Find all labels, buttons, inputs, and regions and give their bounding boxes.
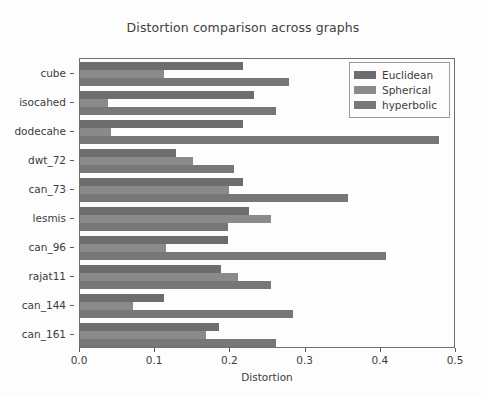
x-tick-mark [79, 348, 80, 352]
figure-canvas: Distortion comparison across graphs cube… [0, 0, 486, 395]
bar-dodecahe-euclidean [80, 120, 243, 128]
y-tick-mark [70, 334, 74, 335]
y-tick-label-cube: cube [40, 67, 66, 79]
y-tick-mark [70, 189, 74, 190]
bar-cube-spherical [80, 70, 164, 78]
y-tick-mark [70, 247, 74, 248]
y-tick-label-isocahed: isocahed [19, 96, 66, 108]
x-tick-mark [154, 348, 155, 352]
page-title: Distortion comparison across graphs [0, 20, 486, 35]
y-tick-label-dodecahe: dodecahe [14, 125, 66, 137]
bar-can_161-euclidean [80, 323, 219, 331]
legend-label: Spherical [382, 84, 431, 96]
y-tick-label-dwt_72: dwt_72 [28, 154, 66, 166]
x-tick-label-0.3: 0.3 [296, 354, 313, 366]
y-axis: cubeisocaheddodecahedwt_72can_73lesmisca… [0, 58, 74, 348]
x-tick-label-0.0: 0.0 [71, 354, 88, 366]
x-tick-label-0.5: 0.5 [447, 354, 464, 366]
y-tick-mark [70, 73, 74, 74]
y-tick-label-can_144: can_144 [22, 299, 66, 311]
legend-label: Euclidean [382, 69, 433, 81]
bar-can_144-euclidean [80, 294, 164, 302]
bar-lesmis-euclidean [80, 207, 249, 215]
x-tick-mark [229, 348, 230, 352]
bar-cube-hyperbolic [80, 78, 289, 86]
bar-rajat11-euclidean [80, 265, 221, 273]
bar-can_96-spherical [80, 244, 166, 252]
y-tick-mark [70, 102, 74, 103]
y-tick-mark [70, 218, 74, 219]
y-tick-mark [70, 131, 74, 132]
bar-isocahed-spherical [80, 99, 108, 107]
bar-can_96-hyperbolic [80, 252, 386, 260]
bar-can_73-hyperbolic [80, 194, 348, 202]
bar-dwt_72-spherical [80, 157, 193, 165]
bar-lesmis-hyperbolic [80, 223, 228, 231]
x-tick-mark [305, 348, 306, 352]
y-tick-label-rajat11: rajat11 [28, 270, 66, 282]
bar-can_73-euclidean [80, 178, 243, 186]
bar-can_96-euclidean [80, 236, 228, 244]
x-axis-label: Distortion [79, 371, 455, 383]
y-tick-label-lesmis: lesmis [33, 212, 66, 224]
bar-dodecahe-hyperbolic [80, 136, 439, 144]
bar-can_144-hyperbolic [80, 310, 293, 318]
bar-can_161-hyperbolic [80, 339, 276, 347]
bar-isocahed-euclidean [80, 91, 254, 99]
bar-dwt_72-hyperbolic [80, 165, 234, 173]
y-tick-label-can_96: can_96 [29, 241, 66, 253]
x-tick-mark [455, 348, 456, 352]
bar-dwt_72-euclidean [80, 149, 176, 157]
y-tick-label-can_73: can_73 [29, 183, 66, 195]
legend-swatch-icon [354, 101, 376, 109]
y-tick-label-can_161: can_161 [22, 328, 66, 340]
legend-item-euclidean[interactable]: Euclidean [354, 68, 444, 82]
legend: EuclideanSphericalhyperbolic [349, 62, 450, 118]
legend-item-spherical[interactable]: Spherical [354, 83, 444, 97]
legend-swatch-icon [354, 86, 376, 94]
y-tick-mark [70, 305, 74, 306]
bar-lesmis-spherical [80, 215, 271, 223]
legend-swatch-icon [354, 71, 376, 79]
x-tick-label-0.2: 0.2 [221, 354, 238, 366]
y-tick-mark [70, 276, 74, 277]
bar-dodecahe-spherical [80, 128, 111, 136]
y-tick-mark [70, 160, 74, 161]
bar-rajat11-spherical [80, 273, 238, 281]
bar-rajat11-hyperbolic [80, 281, 271, 289]
bar-isocahed-hyperbolic [80, 107, 276, 115]
x-tick-label-0.1: 0.1 [146, 354, 163, 366]
bar-can_144-spherical [80, 302, 133, 310]
x-tick-mark [380, 348, 381, 352]
x-tick-label-0.4: 0.4 [371, 354, 388, 366]
bar-can_161-spherical [80, 331, 206, 339]
legend-label: hyperbolic [382, 99, 437, 111]
legend-item-hyperbolic[interactable]: hyperbolic [354, 98, 444, 112]
bar-can_73-spherical [80, 186, 229, 194]
bar-cube-euclidean [80, 62, 243, 70]
